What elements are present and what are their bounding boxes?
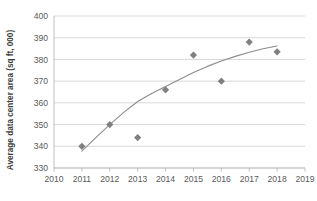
y-tick-label-350: 350 xyxy=(34,120,49,130)
x-tick-label-2015: 2015 xyxy=(184,174,203,184)
x-tick-label-2012: 2012 xyxy=(100,174,119,184)
x-tick-label-2013: 2013 xyxy=(128,174,147,184)
x-tick-label-2011: 2011 xyxy=(73,174,92,184)
y-tick-label-400: 400 xyxy=(34,11,49,21)
scatter-chart: 330340350360370380390400 201020112012201… xyxy=(0,0,317,201)
x-tick-label-2014: 2014 xyxy=(156,174,175,184)
y-tick-label-330: 330 xyxy=(34,163,49,173)
y-tick-label-390: 390 xyxy=(34,33,49,43)
chart-container: 330340350360370380390400 201020112012201… xyxy=(0,0,317,201)
y-tick-label-370: 370 xyxy=(34,76,49,86)
x-tick-label-2018: 2018 xyxy=(268,174,287,184)
y-tick-label-380: 380 xyxy=(34,55,49,65)
x-tick-label-2017: 2017 xyxy=(240,174,259,184)
y-tick-label-340: 340 xyxy=(34,141,49,151)
x-tick-label-2010: 2010 xyxy=(44,174,63,184)
x-tick-label-2016: 2016 xyxy=(212,174,231,184)
y-axis-title: Average data center area (sq ft, 000) xyxy=(6,30,15,171)
y-axis-title-label: Average data center area (sq ft, 000) xyxy=(6,30,15,171)
y-tick-label-360: 360 xyxy=(34,98,49,108)
x-tick-label-2019: 2019 xyxy=(295,174,314,184)
